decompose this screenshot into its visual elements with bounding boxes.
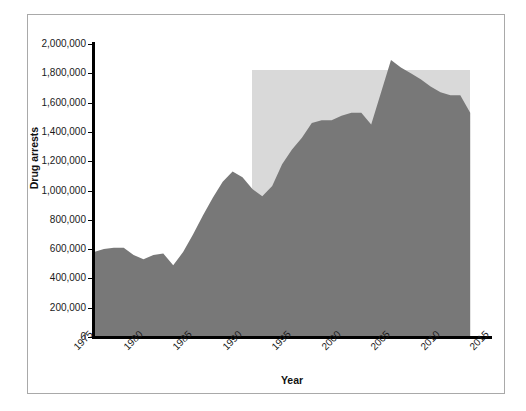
y-axis-tick-mark [88,73,93,74]
y-axis-tick-label: 1,800,000 [42,68,87,78]
y-axis-tick-label: 1,200,000 [42,156,87,166]
y-axis-tick-label: 1,600,000 [42,98,87,108]
y-axis-tick-label: 2,000,000 [42,39,87,49]
y-axis-tick-mark [88,337,93,338]
y-axis-tick-label: 400,000 [50,273,86,283]
y-axis-tick-label: 800,000 [50,215,86,225]
x-axis-title: Year [94,374,490,386]
y-axis-tick-mark [88,161,93,162]
y-axis-tick-mark [88,103,93,104]
y-axis-tick-mark [88,44,93,45]
y-axis-tick-label: 1,000,000 [42,186,87,196]
y-axis-tick-label: 200,000 [50,303,86,313]
chart-figure: 0200,000400,000600,000800,0001,000,0001,… [0,0,526,411]
y-axis-tick-mark [88,191,93,192]
y-axis-title: Drug arrests [28,98,40,218]
y-axis-tick-mark [88,132,93,133]
plot-area [94,44,490,337]
y-axis-tick-mark [88,220,93,221]
y-axis-tick-mark [88,308,93,309]
drug-arrests-area-series [94,44,490,337]
y-axis-tick-label: 600,000 [50,244,86,254]
y-axis-tick-label: 1,400,000 [42,127,87,137]
y-axis-tick-mark [88,278,93,279]
y-axis-tick-labels: 0200,000400,000600,000800,0001,000,0001,… [0,0,86,411]
y-axis-tick-mark [88,249,93,250]
